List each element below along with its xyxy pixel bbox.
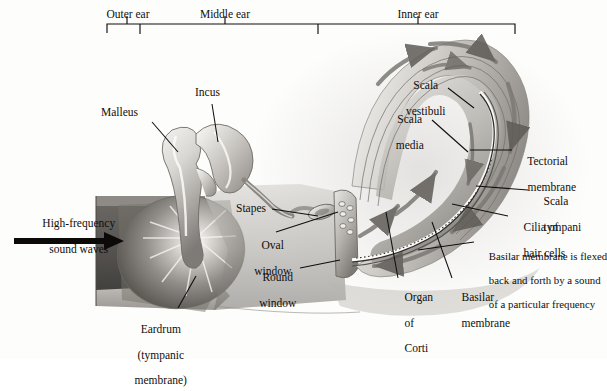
label-malleus: Malleus [101, 106, 138, 119]
label-organ-of-corti: Organ of Corti [393, 278, 433, 368]
label-round-window: Round window [244, 258, 300, 322]
region-label-inner-ear: Inner ear [384, 8, 452, 21]
region-label-middle-ear: Middle ear [188, 8, 262, 21]
region-label-outer-ear: Outer ear [97, 8, 159, 21]
region-scale-bar [107, 16, 515, 34]
vestibule-cross-section [334, 190, 358, 278]
label-scala-media: Scala media [378, 100, 430, 164]
label-basilar-membrane: Basilar membrane [450, 278, 510, 342]
stimulus-label: High-frequency sound waves [14, 204, 132, 268]
label-stapes: Stapes [236, 202, 266, 215]
label-incus: Incus [195, 86, 220, 99]
label-eardrum: Eardrum (tympanic membrane) [112, 310, 198, 391]
stimulus-line1: High-frequency [42, 217, 115, 229]
stimulus-line2: sound waves [49, 243, 108, 255]
